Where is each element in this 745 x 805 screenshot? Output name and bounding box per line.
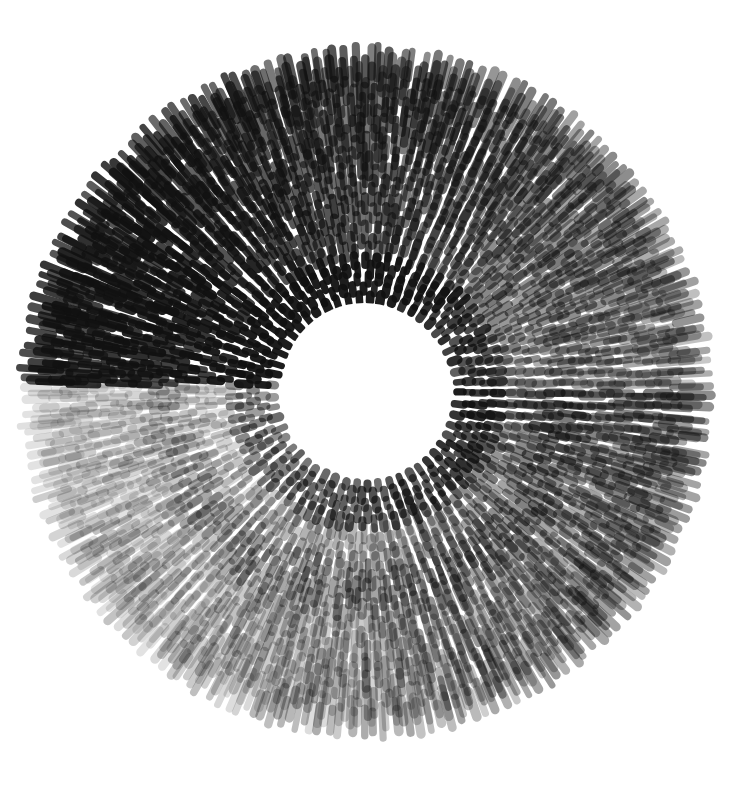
- ink-ring-artwork: [0, 0, 745, 805]
- center-hole: [283, 303, 445, 465]
